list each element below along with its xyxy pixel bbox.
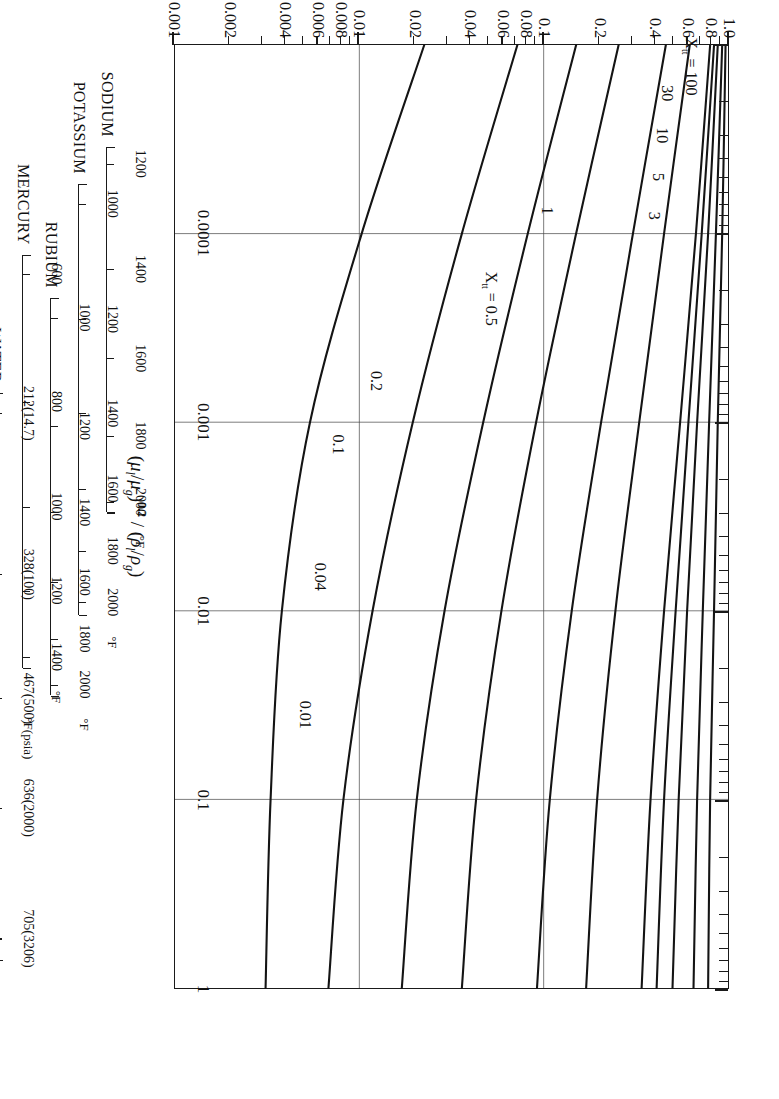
y-tick-label: 0.001 [165,2,183,38]
y-tick-label: 0.008 [332,2,350,38]
y-tick [329,36,330,45]
aux-scale-tick-label: 2000 [104,588,120,616]
x-tick [715,44,728,45]
x-tick [719,324,728,325]
aux-scale-tick [23,507,30,508]
x-tick [719,135,728,136]
y-tick-label: 0.2 [591,18,609,38]
x-tick [715,233,728,234]
aux-scale-tick-label: 1800 [76,625,92,653]
y-tick-label: 0.1 [535,18,553,38]
x-tick [719,759,728,760]
y-tick-label: 0.02 [406,10,424,38]
y-tick [487,36,488,45]
x-tick [719,393,728,394]
x-tick [719,702,728,703]
aux-scale-tick-label: 467(500) [20,673,36,724]
aux-scale-tick-label: 1600 [132,344,148,372]
aux-scale-tick [0,698,2,699]
x-tick [719,933,728,934]
aux-scale-tick-label: 1200 [76,412,92,440]
curve-label-5: 5 [649,173,667,181]
curve-30 [694,45,723,988]
y-tick [631,36,632,45]
x-tick [719,582,728,583]
curve-0-1 [402,45,576,988]
aux-scale-tick-label: 1800 [132,422,148,450]
aux-scale-tick-label: 328(100) [20,549,36,600]
x-tick [719,215,728,216]
y-tick-label: 0.002 [221,2,239,38]
aux-scale-tick [51,318,58,319]
curves-layer [175,45,728,988]
figure-canvas: Xtt = 1003010531Xtt = 0.50.20.10.040.01 … [0,0,779,1099]
x-tick [719,177,728,178]
curve-label-3: 3 [645,212,663,220]
x-tick [719,593,728,594]
aux-scale-tick-label: 1600 [104,475,120,503]
aux-scale-tick-label: 800 [48,391,64,412]
aux-scale-tick [0,938,2,939]
aux-scale-tick [0,413,2,414]
aux-scale-end-cap [79,615,87,616]
paren-close-2: ) [127,571,148,577]
aux-scale-tick [51,685,58,686]
curve-label-x-tt-100: Xtt = 100 [680,37,700,95]
x-tick [719,857,728,858]
aux-scale-tick-label: 1000 [76,304,92,332]
aux-scale-tick-label: 636(2000) [20,779,36,837]
x-tick-label: 0.001 [193,403,213,441]
x-tick [719,792,728,793]
x-tick [719,414,728,415]
x-tick [719,204,728,205]
aux-scale-tick [51,426,58,427]
x-tick [719,782,728,783]
x-tick [719,570,728,571]
aux-scale-start-cap [0,393,3,394]
x-tick-label: 0.1 [193,789,213,810]
rotated-figure-wrapper: Xtt = 1003010531Xtt = 0.50.20.10.040.01 … [0,0,779,1099]
aux-scale-tick-label: 705(3206) [20,909,36,967]
x-tick [719,725,728,726]
x-tick [719,668,728,669]
aux-scale-tick [23,657,30,658]
aux-scale-unit: °F [48,691,64,703]
aux-scale-tick-label: 1000 [48,493,64,521]
x-axis-title-text: (μl/μg)0.2 / (ρl/ρg) [127,456,148,578]
aux-scale-name: WATER [0,328,4,387]
x-tick [719,225,728,226]
x-tick [719,366,728,367]
aux-scale-tick-label: 1600 [76,568,92,596]
x-tick [719,603,728,604]
aux-scale-tick-label: 2000 [76,671,92,699]
y-tick [672,36,673,45]
aux-scale-tick-label: 1400 [132,255,148,283]
data-curves [266,45,726,988]
aux-scale-tick [79,551,86,552]
aux-scale-tick-label: 600 [48,264,64,285]
aux-scale-bar [22,255,23,668]
aux-scale-unit: °F(psia) [20,717,36,759]
aux-scale-tick-label: 1400 [76,498,92,526]
curve-label-0-04: 0.04 [311,563,329,591]
aux-scale-tick-label: 1400 [104,399,120,427]
y-tick-label: 0.8 [702,18,720,38]
x-tick [715,800,728,801]
y-tick [261,36,262,45]
gridlines [175,45,728,988]
plot-area: Xtt = 1003010531Xtt = 0.50.20.10.040.01 [174,44,729,989]
divider: / [127,522,148,527]
aux-scale-tick-label: 1400 [48,643,64,671]
aux-scale-tick [107,269,114,270]
x-tick [719,971,728,972]
x-tick [719,479,728,480]
x-tick-label: 1 [193,985,213,994]
aux-scale-unit: °F [76,718,92,730]
aux-scale-tick [107,436,114,437]
aux-scale-name: POTASSIUM [70,82,88,178]
aux-scale-end-cap [23,668,31,669]
x-tick [719,347,728,348]
curve-label-30: 30 [658,85,676,101]
curve-label-0-01: 0.01 [296,701,314,729]
aux-scale-tick [79,204,86,205]
